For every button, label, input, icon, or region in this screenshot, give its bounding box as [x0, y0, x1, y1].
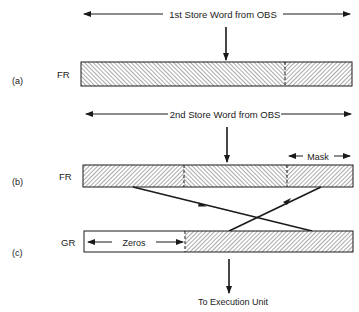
gr-data-section — [185, 231, 353, 252]
fr-section-left — [83, 165, 184, 187]
register-label-gr: GR — [61, 237, 75, 248]
zeros-label: Zeros — [122, 238, 146, 248]
register-label-fr: FR — [59, 171, 72, 182]
row-tag-b: (b) — [12, 177, 23, 187]
mask-label: Mask — [307, 152, 329, 162]
fr-section-left — [81, 62, 285, 86]
span-label-2nd-store-word: 2nd Store Word from OBS — [170, 109, 281, 120]
row-a: 1st Store Word from OBS (a) FR — [12, 9, 352, 86]
row-b: 2nd Store Word from OBS Mask (b) FR — [12, 109, 353, 187]
fr-section-middle — [184, 165, 287, 187]
row-tag-a: (a) — [12, 76, 23, 86]
span-label-1st-store-word: 1st Store Word from OBS — [169, 9, 277, 20]
fr-section-right — [285, 62, 352, 86]
register-label-fr: FR — [57, 69, 70, 80]
transfer-line-left-to-right — [133, 187, 312, 231]
output-label: To Execution Unit — [198, 297, 269, 307]
transfer-line-right-to-middle — [229, 187, 321, 231]
fr-section-mask — [287, 165, 353, 187]
row-c: (c) GR Zeros To Execution Unit — [12, 231, 353, 307]
row-tag-c: (c) — [12, 248, 23, 258]
store-word-diagram: 1st Store Word from OBS (a) FR 2nd Store… — [0, 0, 359, 312]
transfer-lines — [133, 187, 321, 231]
